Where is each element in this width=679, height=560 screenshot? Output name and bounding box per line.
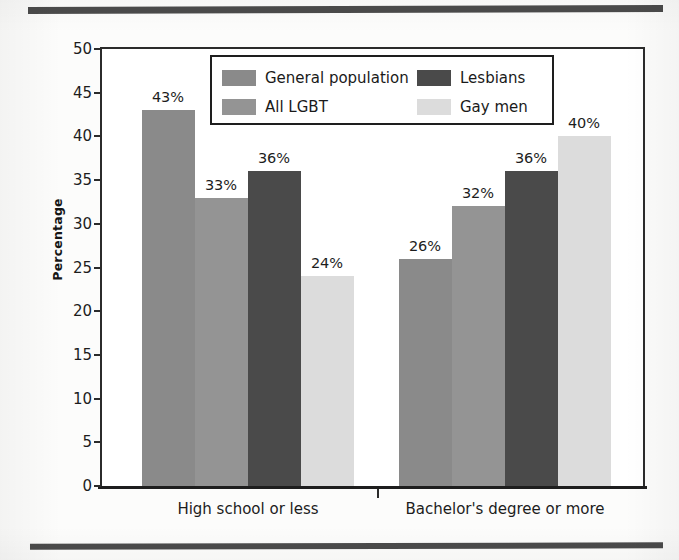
y-axis-tick-mark bbox=[94, 485, 101, 487]
x-axis-tick-label: Bachelor's degree or more bbox=[355, 500, 655, 518]
legend-swatch bbox=[417, 70, 451, 86]
bar-value-label: 32% bbox=[443, 185, 513, 201]
legend-item-label: Lesbians bbox=[460, 69, 525, 87]
y-axis-tick-mark bbox=[94, 48, 101, 50]
y-axis-tick-label: 20 bbox=[44, 304, 92, 319]
bar-value-label: 33% bbox=[186, 177, 256, 193]
y-axis-tick-mark bbox=[94, 354, 101, 356]
bar[interactable] bbox=[142, 110, 195, 486]
legend-item[interactable]: General population bbox=[222, 69, 417, 87]
chart-legend: General populationLesbiansAll LGBTGay me… bbox=[210, 55, 554, 125]
y-axis-tick-label: 40 bbox=[44, 129, 92, 144]
bar-value-label: 26% bbox=[390, 238, 460, 254]
legend-item[interactable]: All LGBT bbox=[222, 98, 417, 116]
y-axis-tick-label: 15 bbox=[44, 348, 92, 363]
legend-item-label: Gay men bbox=[460, 98, 528, 116]
y-axis-tick-mark bbox=[94, 441, 101, 443]
bottom-divider-rule bbox=[30, 542, 663, 549]
x-axis-tick-label: High school or less bbox=[98, 500, 398, 518]
bar[interactable] bbox=[505, 171, 558, 486]
bar-value-label: 40% bbox=[549, 115, 619, 131]
bar[interactable] bbox=[558, 136, 611, 486]
y-axis-tick-label: 0 bbox=[44, 479, 92, 494]
y-axis-tick-mark bbox=[94, 179, 101, 181]
bar[interactable] bbox=[301, 276, 354, 486]
legend-item[interactable]: Gay men bbox=[417, 98, 544, 116]
bar[interactable] bbox=[248, 171, 301, 486]
top-divider-rule bbox=[28, 5, 663, 14]
y-axis-tick-mark bbox=[94, 310, 101, 312]
y-axis-tick-mark bbox=[94, 398, 101, 400]
y-axis-tick-label: 10 bbox=[44, 392, 92, 407]
y-axis-tick-mark bbox=[94, 267, 101, 269]
legend-item-label: General population bbox=[265, 69, 409, 87]
legend-swatch bbox=[417, 99, 451, 115]
y-axis-tick-mark bbox=[94, 135, 101, 137]
bar-value-label: 36% bbox=[496, 150, 566, 166]
y-axis-tick-label: 50 bbox=[44, 42, 92, 57]
y-axis-tick-label: 5 bbox=[44, 435, 92, 450]
bar[interactable] bbox=[399, 259, 452, 486]
y-axis-title: Percentage bbox=[50, 180, 65, 300]
x-axis-baseline bbox=[98, 486, 647, 489]
y-axis-tick-label: 35 bbox=[44, 173, 92, 188]
y-axis-tick-label: 45 bbox=[44, 86, 92, 101]
y-axis-tick-mark bbox=[94, 223, 101, 225]
legend-item[interactable]: Lesbians bbox=[417, 69, 544, 87]
legend-swatch bbox=[222, 99, 256, 115]
y-axis-tick-mark bbox=[94, 92, 101, 94]
y-axis-tick-label: 25 bbox=[44, 261, 92, 276]
bar-slot: 43% bbox=[142, 49, 195, 486]
bar-value-label: 36% bbox=[239, 150, 309, 166]
bar[interactable] bbox=[195, 198, 248, 486]
x-axis-tick-mark bbox=[377, 489, 379, 498]
bar-value-label: 24% bbox=[292, 255, 362, 271]
bar-slot: 40% bbox=[558, 49, 611, 486]
y-axis-tick-label: 30 bbox=[44, 217, 92, 232]
figure-page: Percentage 50454035302520151050 43%33%36… bbox=[0, 0, 679, 560]
bar[interactable] bbox=[452, 206, 505, 486]
legend-swatch bbox=[222, 70, 256, 86]
bar-value-label: 43% bbox=[133, 89, 203, 105]
legend-item-label: All LGBT bbox=[265, 98, 328, 116]
